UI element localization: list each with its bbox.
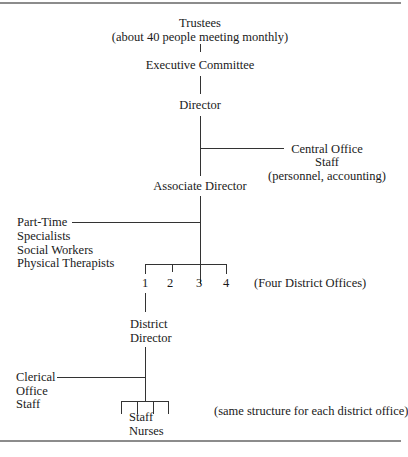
connector-district1-director [145, 293, 146, 312]
node-part-time-physical-therapists: Physical Therapists [17, 256, 114, 270]
connector-director-central-office [200, 148, 284, 149]
top-border-rule [0, 2, 401, 4]
district-number-2: 2 [167, 276, 173, 290]
node-director: Director [179, 98, 221, 112]
node-part-time-social-workers: Social Workers [17, 243, 93, 257]
district-number-3: 3 [196, 276, 202, 290]
node-trustees: Trustees [179, 16, 221, 30]
node-part-time: Part-Time [17, 215, 67, 229]
node-central-office-staff: Staff [315, 155, 339, 169]
node-central-office-note: (personnel, accounting) [268, 169, 386, 183]
tick-district-4 [226, 264, 227, 274]
node-staff-nurses-line2: Nurses [129, 424, 164, 438]
node-central-office: Central Office [291, 142, 363, 156]
bracket-staff-nurses [121, 401, 169, 402]
node-district-director: District [130, 317, 168, 331]
connector-associate-districts [200, 196, 201, 284]
node-clerical-staff: Staff [16, 397, 40, 411]
node-trustees-note: (about 40 people meeting monthly) [112, 30, 288, 44]
district-number-4: 4 [223, 276, 229, 290]
connector-district-director-clerical [57, 377, 145, 378]
node-staff-nurses: Staff [129, 410, 153, 424]
connector-exec-director [200, 76, 201, 94]
district-number-1: 1 [142, 276, 148, 290]
connector-trustees-exec [200, 44, 201, 52]
node-clerical: Clerical [16, 370, 56, 384]
tick-nurse-4 [168, 401, 169, 414]
connector-associate-part-time [72, 222, 200, 223]
node-district-director-line2: Director [130, 331, 172, 345]
node-clerical-office: Office [16, 384, 48, 398]
node-part-time-specialists: Specialists [17, 229, 70, 243]
connector-district-director-nurses [145, 347, 146, 402]
tick-district-1 [145, 264, 146, 274]
connector-director-associate [200, 116, 201, 176]
tick-nurse-3 [153, 401, 154, 414]
node-executive-committee: Executive Committee [146, 58, 255, 72]
tick-district-2 [172, 264, 173, 272]
tick-nurse-1 [121, 401, 122, 414]
district-offices-note: (Four District Offices) [254, 276, 366, 290]
staff-nurses-note: (same structure for each district office… [214, 404, 408, 418]
bracket-district-offices [145, 264, 227, 265]
node-associate-director: Associate Director [153, 179, 246, 193]
bottom-border-rule [0, 440, 401, 442]
